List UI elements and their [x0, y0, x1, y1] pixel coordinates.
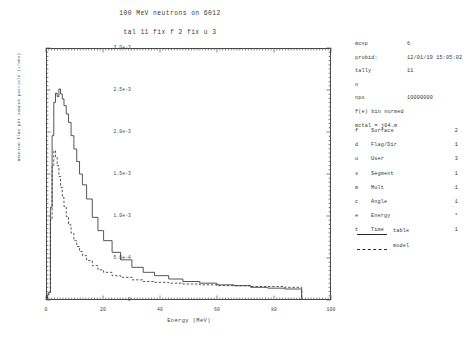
x-tick-label: 20: [83, 307, 123, 312]
bin-table-row: sSegment1: [355, 167, 463, 181]
info-row-normed: f(e) bin normed: [355, 106, 463, 120]
bin-table-row: cAngle1: [355, 195, 463, 209]
bin-table-row: dFlag/Dir1: [355, 138, 463, 152]
bin-code: d: [355, 138, 358, 152]
info-row-particle: n: [355, 79, 463, 93]
info-panel: mcnp 6 probid: 12/01/19 15:05:02 tally 1…: [355, 38, 463, 133]
bin-count: 2: [448, 124, 458, 138]
y-tick-label: 1.0e-3: [71, 213, 131, 218]
legend-item: table: [355, 228, 463, 243]
bin-table-row: fSurface2: [355, 124, 463, 138]
x-tick-label: 40: [140, 307, 180, 312]
x-tick-label: 80: [254, 307, 294, 312]
legend-item: model: [355, 243, 463, 258]
nps-label: nps: [355, 92, 365, 106]
info-row-nps: nps 10000000: [355, 92, 463, 106]
bin-code: f: [355, 124, 358, 138]
mcnp-version: 6: [407, 38, 410, 52]
bin-name: Segment: [371, 167, 394, 181]
x-tick-label: 100: [311, 307, 351, 312]
y-tick-label: 5.0e-4: [71, 255, 131, 260]
info-row-probid: probid: 12/01/19 15:05:02: [355, 52, 463, 66]
bin-table-row: uUser3: [355, 152, 463, 166]
bin-name: Surface: [371, 124, 394, 138]
bin-code: u: [355, 152, 358, 166]
series-table: [47, 89, 302, 299]
bin-table-row: eEnergy*: [355, 209, 463, 223]
y-tick-label: 2.5e-3: [71, 87, 131, 92]
plot-title: 100 MeV neutrons on 6012: [0, 10, 340, 17]
legend: tablemodel: [355, 228, 463, 258]
legend-swatch-dashed: [357, 249, 387, 250]
plot-subtitle: tal 11 fix f 2 fix u 3: [0, 29, 340, 36]
y-tick-label: 3.0e-3: [71, 45, 131, 50]
bin-count: 1: [448, 181, 458, 195]
info-row-mcnp: mcnp 6: [355, 38, 463, 52]
bin-table-row: mMult1: [355, 181, 463, 195]
bin-count: 3: [448, 152, 458, 166]
bin-name: Energy: [371, 209, 391, 223]
y-tick-label: 0: [71, 297, 131, 302]
y-tick-label: 2.0e-3: [71, 129, 131, 134]
y-tick-label: 1.5e-3: [71, 171, 131, 176]
bin-count: *: [448, 209, 458, 223]
info-row-tally: tally 11: [355, 65, 463, 79]
x-tick-label: 0: [26, 307, 66, 312]
nps-value: 10000000: [407, 92, 433, 106]
bin-normed-note: f(e) bin normed: [355, 106, 404, 120]
bin-code: e: [355, 209, 358, 223]
probid-value: 12/01/19 15:05:02: [407, 52, 462, 66]
bin-code: c: [355, 195, 358, 209]
probid-label: probid:: [355, 52, 378, 66]
bin-code: s: [355, 167, 358, 181]
x-tick-label: 60: [197, 307, 237, 312]
mcnp-tally-plot-page: 100 MeV neutrons on 6012 tal 11 fix f 2 …: [0, 0, 465, 341]
bin-count: 1: [448, 167, 458, 181]
bin-code: m: [355, 181, 358, 195]
legend-label: table: [393, 228, 409, 234]
tally-label: tally: [355, 65, 371, 79]
bin-name: Flag/Dir: [371, 138, 397, 152]
bin-table: fSurface2dFlag/Dir1uUser3sSegment1mMult1…: [355, 124, 463, 238]
bin-name: Mult: [371, 181, 384, 195]
bin-name: Angle: [371, 195, 387, 209]
mcnp-label: mcnp: [355, 38, 368, 52]
bin-count: 1: [448, 138, 458, 152]
tally-number: 11: [407, 65, 414, 79]
bin-count: 1: [448, 195, 458, 209]
particle-type: n: [355, 79, 358, 93]
legend-swatch-solid: [357, 234, 387, 235]
bin-name: User: [371, 152, 384, 166]
legend-label: model: [393, 243, 409, 249]
x-axis-label: Energy (MeV): [0, 318, 378, 324]
y-axis-label: Neutron flux per source particle (1/MeV): [17, 52, 21, 162]
